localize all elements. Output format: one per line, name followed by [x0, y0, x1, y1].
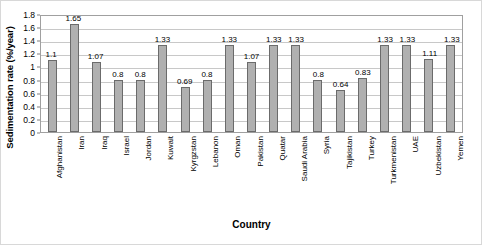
x-axis-label-slot: Pakistan [240, 134, 262, 216]
bar [48, 60, 57, 132]
x-axis-label-slot: Uzbekistan [419, 134, 441, 216]
y-axis-tick-label: 1.2 [23, 49, 35, 59]
x-axis-label-slot: Afghanistan [40, 134, 62, 216]
bar [247, 62, 256, 132]
x-axis-label-slot: Quatar [263, 134, 285, 216]
y-axis-tick-labels: 1.81.61.41.210.80.60.40.20 [17, 15, 37, 133]
bar [358, 78, 367, 132]
x-axis-label-slot: Turkmenistan [374, 134, 396, 216]
bar [225, 45, 234, 132]
x-axis-label-slot: Syria [307, 134, 329, 216]
x-axis-label-slot: Lebanon [196, 134, 218, 216]
x-axis-label-slot: Jordan [129, 134, 151, 216]
y-axis-tick-label: 0.4 [23, 102, 35, 112]
x-axis-label-slot: Iraq [85, 134, 107, 216]
bar [402, 45, 411, 132]
bar-slot [152, 16, 174, 132]
bar-slot [418, 16, 440, 132]
y-axis-title-text: Sedimentation rate (%/year) [4, 26, 15, 148]
bar-slot [63, 16, 85, 132]
x-axis-category-label: Yemen [456, 136, 465, 161]
bar-slot [240, 16, 262, 132]
bar-slot [107, 16, 129, 132]
bar [158, 45, 167, 132]
bar [181, 87, 190, 132]
bar-slot [130, 16, 152, 132]
bar [424, 59, 433, 132]
x-axis-category-labels: AfghanistanIranIraqIsraelJordanKuwaitKyr… [40, 134, 463, 216]
bar [313, 80, 322, 132]
bar-slot [351, 16, 373, 132]
y-axis-tick-label: 1.4 [23, 36, 35, 46]
y-axis-tick-label: 1.8 [23, 10, 35, 20]
bar-slot [174, 16, 196, 132]
y-axis-title: Sedimentation rate (%/year) [1, 1, 17, 173]
bar-slot [41, 16, 63, 132]
bar-slot [396, 16, 418, 132]
x-axis-title: Country [40, 219, 463, 230]
bar [380, 45, 389, 132]
bar [136, 80, 145, 132]
y-axis-tick-label: 0 [30, 128, 35, 138]
bar-slot [196, 16, 218, 132]
bar-slot [307, 16, 329, 132]
bar-slot [85, 16, 107, 132]
x-axis-label-slot: Kyrgzstan [174, 134, 196, 216]
y-axis-tick-label: 1 [30, 62, 35, 72]
bar [269, 45, 278, 132]
bar-slot [440, 16, 462, 132]
y-axis-tick-label: 1.6 [23, 23, 35, 33]
plot-area [40, 15, 463, 133]
bar-slot [285, 16, 307, 132]
bar-slot [263, 16, 285, 132]
bars-container [41, 16, 462, 132]
x-axis-label-slot: Israel [107, 134, 129, 216]
sedimentation-rate-bar-chart: Sedimentation rate (%/year) 1.81.61.41.2… [0, 0, 482, 245]
bar [446, 45, 455, 132]
bar [92, 62, 101, 132]
bar [336, 90, 345, 132]
x-axis-label-slot: Iran [62, 134, 84, 216]
x-axis-label-slot: Yemen [441, 134, 463, 216]
x-axis-label-slot: Turkey [352, 134, 374, 216]
bar [203, 80, 212, 132]
x-axis-label-slot: Tajikistan [329, 134, 351, 216]
bar [70, 24, 79, 132]
x-axis-label-slot: Kuwait [151, 134, 173, 216]
bar [114, 80, 123, 132]
bar [291, 45, 300, 132]
x-axis-label-slot: Saudi Arabia [285, 134, 307, 216]
x-axis-label-slot: Oman [218, 134, 240, 216]
y-axis-tick-label: 0.8 [23, 76, 35, 86]
x-axis-label-slot: UAE [396, 134, 418, 216]
bar-slot [329, 16, 351, 132]
y-axis-tick-label: 0.6 [23, 89, 35, 99]
bar-slot [373, 16, 395, 132]
bar-slot [218, 16, 240, 132]
y-axis-tick-label: 0.2 [23, 115, 35, 125]
